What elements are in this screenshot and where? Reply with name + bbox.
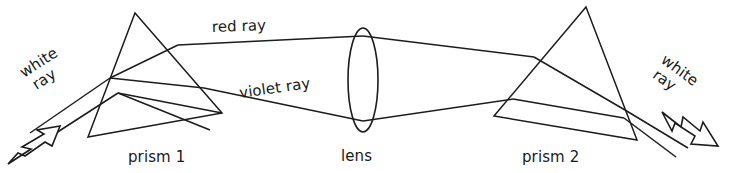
label-red-ray: red ray	[212, 16, 267, 36]
red-ray-lens-to-prism-2	[363, 36, 534, 57]
label-white-ray-right: white ray	[648, 51, 702, 104]
white-ray-inner-lower-prism-1	[118, 93, 210, 130]
violet-ray-lens-to-prism-2	[363, 99, 513, 121]
prism-1-outline	[88, 13, 222, 137]
label-lens: lens	[341, 147, 372, 165]
ray-inner-secondary	[118, 93, 222, 130]
lens-outline	[348, 28, 378, 132]
optics-diagram: white ray red ray violet ray prism 1 len…	[0, 0, 734, 173]
label-prism-2: prism 2	[522, 148, 579, 166]
prism-2	[494, 7, 637, 140]
white-ray-incoming-arrowhead	[8, 126, 60, 164]
white-ray-outgoing-arrowhead	[662, 112, 718, 146]
label-violet-ray: violet ray	[238, 74, 311, 102]
label-prism-1: prism 1	[128, 148, 185, 166]
white-ray-outgoing	[624, 110, 718, 157]
red-ray-inside-prism-2	[534, 57, 625, 110]
red-ray-to-lens	[178, 36, 363, 45]
label-white-ray-left: white ray	[16, 44, 70, 96]
violet-ray-inside-prism-2	[513, 99, 624, 118]
prism-1	[88, 13, 222, 137]
figure-canvas: white ray red ray violet ray prism 1 len…	[0, 0, 734, 173]
violet-ray-inside-prism-1	[110, 78, 204, 88]
violet-ray	[110, 78, 624, 121]
prism-2-outline	[494, 7, 637, 140]
white-ray-incoming	[8, 78, 118, 164]
lens	[348, 28, 378, 132]
